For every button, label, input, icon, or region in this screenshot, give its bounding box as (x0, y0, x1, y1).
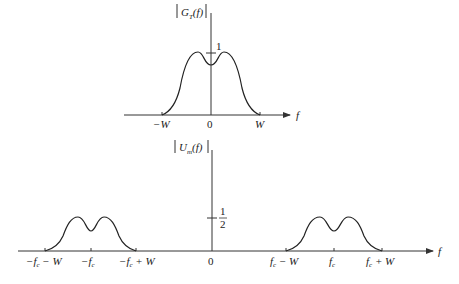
tick-label-zero: 0 (208, 255, 214, 267)
tick-label-fc: fc (329, 255, 336, 269)
bottom-left-lobe (45, 217, 136, 251)
top-axis-label-f: f (296, 109, 301, 121)
top-plot: GT(f) 1 −W 0 W f (124, 4, 301, 130)
top-ylabel: GT(f) (181, 6, 204, 21)
bottom-tick-half-den: 2 (220, 218, 226, 230)
tick-label-neg-fc: −fc (81, 255, 95, 269)
tick-label-neg-fc-minus-w: −fc − W (26, 255, 63, 269)
bottom-ylabel: Um(f) (179, 141, 203, 156)
bottom-plot: Um(f) 1 2 −fc − W −fc −fc + W 0 fc − W f… (18, 140, 443, 269)
bottom-axis-label-f: f (438, 245, 443, 257)
top-tick-label-1: 1 (216, 40, 222, 52)
spectrum-diagram: GT(f) 1 −W 0 W f Um(f) 1 2 −fc − W −fc −… (0, 0, 459, 284)
top-tick-label-zero: 0 (207, 118, 213, 130)
bottom-tick-half-num: 1 (220, 205, 226, 217)
tick-label-fc-minus-w: fc − W (270, 255, 299, 269)
top-tick-label-w: W (255, 118, 265, 130)
bottom-right-lobe (286, 217, 382, 251)
top-tick-label-neg-w: −W (153, 118, 170, 130)
tick-label-neg-fc-plus-w: −fc + W (119, 255, 156, 269)
tick-label-fc-plus-w: fc + W (366, 255, 395, 269)
